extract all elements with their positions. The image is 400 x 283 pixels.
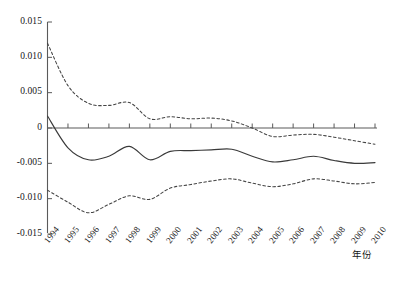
y-tick-label: -0.015 (2, 228, 42, 238)
y-tick-label: 0.005 (2, 86, 42, 96)
y-tick-label: 0.015 (2, 16, 42, 26)
y-tick-marks (48, 22, 53, 234)
series-line-estimate (48, 116, 376, 163)
y-tick-label: -0.010 (2, 192, 42, 202)
chart-container: 0.0150.0100.0050-0.005-0.010-0.015 19941… (0, 0, 400, 283)
y-tick-label: -0.005 (2, 157, 42, 167)
y-tick-label: 0 (2, 122, 42, 132)
series-line-lower-confidence-band (48, 179, 376, 213)
series-line-upper-confidence-band (48, 43, 376, 144)
x-axis-title: 年份 (352, 247, 372, 261)
chart-plot-svg (0, 0, 400, 283)
x-tick-marks (48, 124, 376, 129)
y-tick-label: 0.010 (2, 51, 42, 61)
